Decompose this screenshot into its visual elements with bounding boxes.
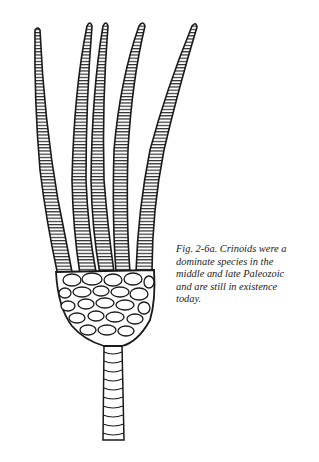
figure-caption: Fig. 2-6a. Crinoids were a dominate spec… bbox=[176, 243, 318, 306]
crinoid-stem bbox=[103, 346, 124, 440]
crinoid-calyx bbox=[56, 270, 155, 346]
crinoid-arm-5 bbox=[136, 24, 197, 272]
caption-line-3: middle and late Paleozoic bbox=[176, 268, 318, 281]
crinoid-arm-3 bbox=[91, 23, 114, 274]
caption-line-4: and are still in existence bbox=[176, 281, 318, 294]
caption-line-2: dominate species in the bbox=[176, 256, 318, 269]
caption-line-1: Fig. 2-6a. Crinoids were a bbox=[176, 243, 318, 256]
caption-line-5: today. bbox=[176, 293, 318, 306]
crinoid-arm-1 bbox=[35, 28, 72, 276]
crinoid-illustration bbox=[0, 0, 319, 462]
